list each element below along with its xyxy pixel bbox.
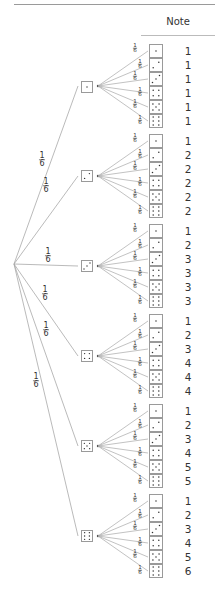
note-value: 2: [185, 191, 192, 203]
note-value: 1: [185, 225, 192, 237]
second-die-face-2: [150, 509, 163, 522]
second-level-probability-label: 16: [138, 384, 142, 395]
pip-icon: [152, 379, 154, 381]
first-level-branch: [14, 86, 78, 264]
second-level-probability-label: 16: [138, 294, 142, 305]
svg-text:6: 6: [133, 345, 137, 351]
pip-icon: [158, 574, 160, 576]
pip-icon: [152, 185, 154, 187]
second-die-face-3: [150, 73, 163, 86]
second-level-probability-label: 16: [138, 266, 142, 277]
pip-icon: [158, 390, 160, 392]
note-value: 3: [185, 523, 192, 535]
pip-icon: [155, 556, 157, 558]
pip-icon: [152, 570, 154, 572]
second-level-probability-label: 16: [133, 132, 137, 143]
note-value: 5: [185, 551, 192, 563]
svg-text:6: 6: [138, 63, 142, 69]
pip-icon: [158, 421, 160, 423]
pip-icon: [152, 206, 154, 208]
pip-icon: [152, 480, 154, 482]
second-die-face-4: [150, 177, 163, 190]
pip-icon: [158, 365, 160, 367]
svg-text:6: 6: [133, 407, 137, 413]
pip-icon: [155, 348, 157, 350]
pip-icon: [84, 539, 85, 540]
pip-icon: [158, 103, 160, 105]
pip-icon: [152, 179, 154, 181]
pip-icon: [152, 386, 154, 388]
second-die-face-6: [150, 295, 163, 308]
pip-icon: [158, 379, 160, 381]
first-die-face-6: [82, 531, 93, 542]
second-level-probability-label: 16: [133, 492, 137, 503]
note-value: 5: [185, 461, 192, 473]
pip-icon: [155, 410, 157, 412]
pip-icon: [89, 443, 90, 444]
second-level-probability-label: 16: [138, 328, 142, 339]
note-value: 1: [185, 73, 192, 85]
second-die-face-2: [150, 59, 163, 72]
pip-icon: [152, 469, 154, 471]
pip-icon: [158, 570, 160, 572]
second-level-probability-label: 16: [133, 188, 137, 199]
pip-icon: [152, 463, 154, 465]
pip-icon: [155, 140, 157, 142]
pip-icon: [158, 120, 160, 122]
pip-icon: [152, 449, 154, 451]
pip-icon: [158, 89, 160, 91]
pip-icon: [159, 525, 161, 527]
pip-icon: [89, 358, 90, 359]
first-level-branch: [14, 264, 78, 356]
pip-icon: [86, 265, 87, 266]
pip-icon: [158, 539, 160, 541]
pip-icon: [152, 427, 154, 429]
pip-icon: [158, 463, 160, 465]
pip-icon: [89, 539, 90, 540]
pip-icon: [155, 168, 157, 170]
note-value: 1: [185, 135, 192, 147]
pip-icon: [152, 89, 154, 91]
pip-icon: [158, 331, 160, 333]
svg-text:6: 6: [138, 451, 142, 457]
pip-icon: [89, 532, 90, 533]
svg-text:6: 6: [138, 569, 142, 575]
note-value: 3: [185, 343, 192, 355]
second-level-probability-label: 16: [138, 474, 142, 485]
svg-text:6: 6: [138, 541, 142, 547]
pip-icon: [152, 545, 154, 547]
pip-icon: [158, 559, 160, 561]
pip-icon: [89, 262, 90, 263]
pip-icon: [155, 500, 157, 502]
note-value: 1: [185, 495, 192, 507]
pip-icon: [152, 574, 154, 576]
svg-text:6: 6: [43, 329, 48, 338]
first-die-face-5: [82, 441, 93, 452]
pip-icon: [152, 553, 154, 555]
pip-icon: [158, 394, 160, 396]
pip-icon: [152, 95, 154, 97]
pip-icon: [158, 373, 160, 375]
pip-icon: [158, 214, 160, 216]
pip-icon: [152, 559, 154, 561]
pip-icon: [158, 206, 160, 208]
pip-icon: [158, 300, 160, 302]
second-die-face-2: [150, 419, 163, 432]
pip-icon: [158, 61, 160, 63]
second-level-probability-label: 16: [133, 312, 137, 323]
second-die-face-6: [150, 385, 163, 398]
svg-text:6: 6: [138, 479, 142, 485]
pip-icon: [152, 365, 154, 367]
second-level-probability-label: 16: [138, 176, 142, 187]
pip-icon: [158, 449, 160, 451]
first-level-branch: [14, 264, 78, 536]
note-value: 1: [185, 59, 192, 71]
second-die-face-3: [150, 163, 163, 176]
second-level-probability-label: 16: [133, 98, 137, 109]
pip-icon: [152, 359, 154, 361]
second-level-probability-label: 16: [138, 446, 142, 457]
second-level-probability-label: 16: [133, 222, 137, 233]
pip-icon: [158, 283, 160, 285]
pip-icon: [158, 359, 160, 361]
pip-icon: [155, 438, 157, 440]
